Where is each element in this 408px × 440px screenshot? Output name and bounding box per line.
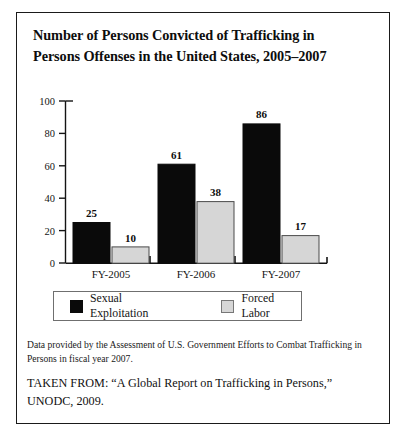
bar-group-fy-2005: 25 10 [73,207,149,263]
y-tick-label: 80 [45,128,56,139]
bar-label-sexual-exploitation-fy-2006: 61 [171,149,182,161]
bar-label-forced-labor-fy-2007: 17 [295,220,307,232]
y-tick-label: 0 [50,258,55,269]
legend-item-forced-labor[interactable]: Forced Labor [221,291,301,321]
y-axis-ticks [59,101,66,263]
legend-swatch-sexual-exploitation [70,300,83,313]
chart-title: Number of Persons Convicted of Trafficki… [33,25,363,66]
y-tick-label: 40 [45,193,56,204]
bar-forced-labor-fy-2005[interactable] [112,247,149,263]
bar-label-forced-labor-fy-2005: 10 [125,232,137,244]
x-tick-label-fy-2005: FY-2005 [92,268,131,280]
bar-forced-labor-fy-2006[interactable] [197,202,234,264]
y-tick-label: 100 [39,96,55,107]
y-axis [66,101,74,263]
chart-legend: Sexual Exploitation Forced Labor [53,291,302,321]
legend-label-forced-labor: Forced Labor [241,291,301,321]
data-source-note: Data provided by the Assessment of U.S. … [27,338,367,367]
bar-sexual-exploitation-fy-2006[interactable] [158,164,195,263]
y-tick-label: 60 [45,161,56,172]
x-tick-label-fy-2007: FY-2007 [262,268,301,280]
y-tick-label: 20 [45,226,56,237]
legend-swatch-forced-labor [221,300,234,313]
taken-from-note: TAKEN FROM: “A Global Report on Traffick… [27,375,372,410]
bar-label-sexual-exploitation-fy-2005: 25 [86,207,98,219]
bar-chart-svg: 100 80 60 40 20 0 25 10 [17,75,391,283]
bar-chart-plot-area: 100 80 60 40 20 0 25 10 [17,75,391,283]
figure-frame: Number of Persons Convicted of Trafficki… [16,12,390,424]
bar-label-forced-labor-fy-2006: 38 [210,186,222,198]
bar-group-fy-2006: 61 38 [158,149,234,264]
y-axis-tick-labels: 100 80 60 40 20 0 [39,96,55,269]
bar-label-sexual-exploitation-fy-2007: 86 [256,108,268,120]
bar-forced-labor-fy-2007[interactable] [282,236,319,264]
legend-item-sexual-exploitation[interactable]: Sexual Exploitation [70,291,177,321]
x-axis-tick-labels: FY-2005 FY-2006 FY-2007 [92,268,301,280]
x-tick-label-fy-2006: FY-2006 [177,268,216,280]
bar-sexual-exploitation-fy-2005[interactable] [73,223,110,264]
legend-label-sexual-exploitation: Sexual Exploitation [90,291,177,321]
bar-sexual-exploitation-fy-2007[interactable] [243,124,280,263]
bar-group-fy-2007: 86 17 [243,108,319,263]
